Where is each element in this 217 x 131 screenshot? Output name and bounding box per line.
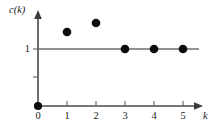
y-axis-title: c(k) — [9, 5, 25, 16]
data-point-k2 — [92, 19, 101, 28]
x-tick-label-4: 4 — [146, 111, 162, 122]
x-tick-label-1: 1 — [59, 111, 75, 122]
x-axis-arrowhead — [194, 102, 203, 110]
data-point-k0 — [34, 102, 42, 110]
x-tick-label-5: 5 — [175, 111, 191, 122]
x-tick-label-2: 2 — [88, 111, 104, 122]
y-tick-label-1: 1 — [18, 44, 30, 55]
x-axis-title: k — [203, 111, 208, 122]
x-tick-label-0: 0 — [30, 111, 46, 122]
plot-area: c(k) k 1 0 1 2 3 4 5 — [0, 0, 217, 131]
data-point-k5 — [179, 45, 188, 54]
data-point-k1 — [63, 28, 72, 37]
chart-figure: c(k) k 1 0 1 2 3 4 5 — [0, 0, 217, 131]
data-point-k3 — [121, 45, 130, 54]
y-axis-arrowhead — [34, 10, 42, 19]
x-tick-label-3: 3 — [117, 111, 133, 122]
data-point-k4 — [150, 45, 159, 54]
